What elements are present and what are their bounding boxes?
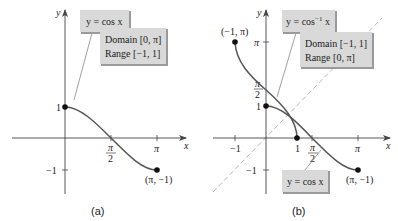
point-pi-neg1	[355, 167, 361, 173]
point-pi-neg1	[154, 167, 160, 173]
callout-pointer	[74, 33, 92, 100]
tick-label-y-neg1: −1	[246, 165, 257, 176]
point-0-1	[263, 103, 269, 109]
panel-b: x y −1 1 π 2 π π π 2 1 −1 (−1, π) (π, −1…	[213, 7, 391, 217]
range-text: Range [0, π]	[305, 52, 355, 63]
caption-a: (a)	[91, 205, 104, 217]
tick-label-neg1: −1	[46, 165, 57, 176]
point-label-pi-neg1: (π, −1)	[346, 174, 373, 186]
point-1-0	[294, 135, 300, 141]
domain-text: Domain [−1, 1]	[305, 38, 367, 49]
range-text: Range [−1, 1]	[105, 48, 160, 59]
point-label-pi-neg1: (π, −1)	[145, 174, 172, 186]
tick-label-pi: π	[154, 143, 160, 154]
tick-label-pi-half-num: π	[310, 142, 316, 153]
tick-label-pi-half-num: π	[108, 142, 114, 153]
x-axis-label: x	[385, 140, 391, 151]
y-axis-label: y	[256, 7, 262, 18]
arccos-label: y = cos−1 x	[286, 15, 330, 27]
cos-label: y = cos x	[287, 176, 323, 187]
point-label-neg1-pi: (−1, π)	[221, 26, 248, 38]
tick-label-1: 1	[56, 102, 61, 113]
domain-text: Domain [0, π]	[105, 34, 161, 45]
tick-label-1: 1	[295, 143, 300, 154]
panel-a: x y π 2 π 1 −1 (π, −1) y = cos x Domain …	[12, 7, 189, 217]
tick-label-neg1: −1	[230, 143, 241, 154]
tick-label-y-pi: π	[254, 37, 260, 48]
y-axis-label: y	[55, 7, 61, 18]
tick-label-y-1: 1	[256, 101, 261, 112]
callout-pointer-arccos	[277, 33, 296, 97]
tick-label-pi-half-den: 2	[108, 153, 113, 164]
caption-b: (b)	[292, 205, 305, 217]
figure: x y π 2 π 1 −1 (π, −1) y = cos x Domain …	[0, 0, 398, 221]
tick-label-y-pi-half-den: 2	[255, 89, 260, 100]
function-label: y = cos x	[86, 16, 122, 27]
point-neg1-pi	[232, 39, 238, 45]
x-axis-label: x	[183, 140, 189, 151]
tick-label-pi: π	[355, 143, 361, 154]
point-0-1	[62, 104, 68, 110]
